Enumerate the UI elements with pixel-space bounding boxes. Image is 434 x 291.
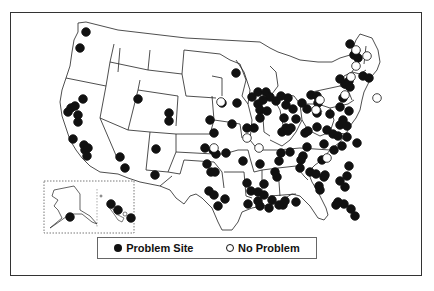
problem-site-marker <box>127 214 136 223</box>
problem-site-marker <box>343 133 352 142</box>
problem-site-marker <box>320 140 329 149</box>
problem-site-marker <box>151 171 160 180</box>
problem-site-marker <box>336 103 345 112</box>
problem-site-marker <box>203 160 212 169</box>
problem-site-marker <box>210 129 219 138</box>
problem-site-marker <box>256 114 265 123</box>
no-problem-site-marker <box>323 154 332 163</box>
filled-circle-icon <box>114 244 122 252</box>
problem-site-marker <box>304 127 313 136</box>
problem-site-marker <box>233 99 242 108</box>
problem-site-marker <box>354 54 363 63</box>
problem-site-marker <box>76 44 85 53</box>
problem-site-marker <box>211 168 220 177</box>
no-problem-site-marker <box>243 134 252 143</box>
problem-site-marker <box>82 28 91 37</box>
problem-site-marker <box>341 183 350 192</box>
problem-site-marker <box>351 212 360 221</box>
problem-site-marker <box>284 127 293 136</box>
problem-site-marker <box>222 149 231 158</box>
problem-site-marker <box>353 139 362 148</box>
problem-site-marker <box>243 179 252 188</box>
problem-site-marker <box>228 120 237 129</box>
no-problem-site-marker <box>352 62 361 71</box>
problem-site-marker <box>74 118 83 127</box>
no-problem-site-marker <box>341 91 350 100</box>
no-problem-site-marker <box>363 52 372 61</box>
problem-site-marker <box>221 195 230 204</box>
problem-site-marker <box>214 202 223 211</box>
problem-site-marker <box>296 164 305 173</box>
problem-site-marker <box>256 202 265 211</box>
problem-site-marker <box>134 95 143 104</box>
problem-site-marker <box>260 180 269 189</box>
no-problem-site-marker <box>352 46 361 55</box>
problem-site-marker <box>343 122 352 131</box>
problem-site-marker <box>345 162 354 171</box>
problem-site-marker <box>250 124 259 133</box>
problem-site-marker <box>271 168 280 177</box>
problem-site-marker <box>346 83 355 92</box>
problem-site-marker <box>121 164 130 173</box>
problem-site-marker <box>84 144 93 153</box>
problem-site-marker <box>275 157 284 166</box>
no-problem-site-marker <box>210 144 219 153</box>
problem-site-marker <box>345 107 354 116</box>
problem-site-marker <box>277 149 286 158</box>
problem-site-marker <box>116 153 125 162</box>
problem-site-marker <box>286 148 295 157</box>
problem-site-marker <box>232 69 241 78</box>
legend-item-no-problem: No Problem <box>226 242 300 254</box>
problem-site-marker <box>292 198 301 207</box>
problem-site-marker <box>277 92 286 101</box>
problem-site-marker <box>239 157 248 166</box>
no-problem-site-marker <box>217 98 226 107</box>
state-borders <box>60 22 380 230</box>
problem-site-marker <box>114 206 123 215</box>
legend: Problem Site No Problem <box>97 237 317 259</box>
problem-site-marker <box>210 191 219 200</box>
problem-site-marker <box>165 109 174 118</box>
problem-site-marker <box>334 198 343 207</box>
problem-site-marker <box>365 74 374 83</box>
problem-site-marker <box>338 142 347 151</box>
problem-site-marker <box>79 95 88 104</box>
problem-site-marker <box>289 105 298 114</box>
no-problem-site-marker <box>316 96 325 105</box>
no-problem-site-marker <box>312 106 321 115</box>
problem-site-marker <box>206 116 215 125</box>
problem-site-marker <box>275 201 284 210</box>
problem-site-marker <box>321 171 330 180</box>
problem-site-marker <box>244 200 253 209</box>
legend-label-no-problem: No Problem <box>238 242 300 254</box>
problem-site-marker <box>107 200 116 209</box>
problem-site-marker <box>303 143 312 152</box>
problem-site-markers <box>64 28 374 223</box>
problem-site-marker <box>334 132 343 141</box>
legend-item-problem: Problem Site <box>114 242 193 254</box>
no-problem-site-marker <box>347 73 356 82</box>
problem-site-marker <box>292 115 301 124</box>
problem-site-marker <box>69 135 78 144</box>
problem-site-marker <box>83 152 92 161</box>
problem-site-marker <box>66 213 75 222</box>
problem-site-marker <box>297 156 306 165</box>
problem-site-marker <box>152 145 161 154</box>
no-problem-site-marker <box>255 144 264 153</box>
problem-site-marker <box>326 110 335 119</box>
problem-site-marker <box>256 160 265 169</box>
problem-site-marker <box>201 144 210 153</box>
problem-site-marker <box>316 186 325 195</box>
problem-site-marker <box>265 204 274 213</box>
problem-site-marker <box>254 88 263 97</box>
problem-site-marker <box>71 102 80 111</box>
problem-site-marker <box>312 170 321 179</box>
problem-site-marker <box>263 107 272 116</box>
no-problem-site-marker <box>373 94 382 103</box>
problem-site-marker <box>336 75 345 84</box>
legend-label-problem: Problem Site <box>126 242 193 254</box>
problem-site-marker <box>330 146 339 155</box>
problem-site-marker <box>280 114 289 123</box>
open-circle-icon <box>226 244 234 252</box>
problem-site-marker <box>313 123 322 132</box>
